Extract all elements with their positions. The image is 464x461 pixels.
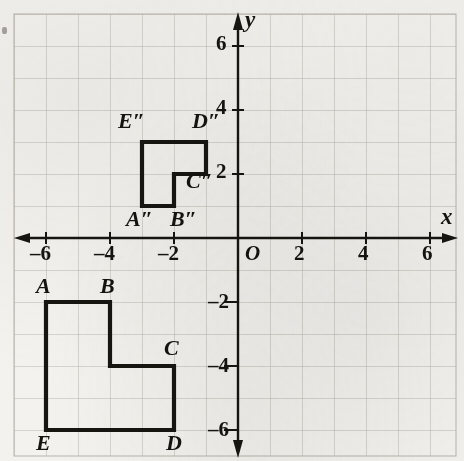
vertex-label-b-double-prime: B″ bbox=[170, 208, 197, 230]
vertex-label-b: B bbox=[100, 275, 115, 297]
y-tick-6: 6 bbox=[216, 33, 227, 54]
y-axis-label: y bbox=[245, 8, 255, 31]
x-axis-label: x bbox=[441, 205, 453, 228]
coordinate-plane bbox=[0, 0, 464, 461]
vertex-label-d: D bbox=[166, 432, 182, 454]
y-tick--6: –6 bbox=[208, 419, 229, 440]
grid bbox=[14, 14, 456, 456]
x-tick--2: –2 bbox=[158, 243, 179, 264]
vertex-label-a-double-prime: A″ bbox=[126, 208, 153, 230]
x-tick-4: 4 bbox=[358, 243, 369, 264]
origin-label: O bbox=[245, 243, 260, 264]
x-tick-2: 2 bbox=[294, 243, 305, 264]
figure-stage: x y O –6 –4 –2 2 4 6 6 4 2 –2 –4 –6 A B … bbox=[0, 0, 464, 461]
vertex-label-a: A bbox=[36, 275, 51, 297]
vertex-label-c: C bbox=[164, 337, 179, 359]
x-tick-6: 6 bbox=[422, 243, 433, 264]
vertex-label-e: E bbox=[36, 432, 51, 454]
x-tick--6: –6 bbox=[30, 243, 51, 264]
y-tick--4: –4 bbox=[208, 355, 229, 376]
x-tick--4: –4 bbox=[94, 243, 115, 264]
vertex-label-c-double-prime: C″ bbox=[186, 170, 213, 192]
vertex-label-e-double-prime: E″ bbox=[118, 110, 145, 132]
scan-artifact bbox=[2, 27, 7, 34]
y-tick-2: 2 bbox=[216, 161, 227, 182]
y-tick--2: –2 bbox=[208, 291, 229, 312]
vertex-label-d-double-prime: D″ bbox=[192, 110, 220, 132]
